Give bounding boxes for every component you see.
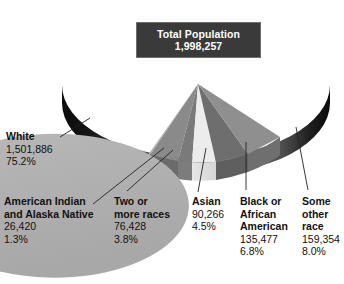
pie-top-face — [0, 84, 280, 278]
slice-label-black-name: Black or African American — [240, 195, 288, 233]
slice-label-aian: American Indian and Alaska Native 26,420… — [4, 195, 94, 245]
slice-label-aian-count: 26,420 — [4, 220, 94, 233]
slice-label-asian-count: 90,266 — [192, 208, 224, 221]
slice-label-two-or-more-races: Two or more races 76,428 3.8% — [114, 195, 170, 245]
slice-label-white-count: 1,501,886 — [6, 143, 53, 156]
slice-label-white-percent: 75.2% — [6, 155, 53, 168]
slice-label-white-name: White — [6, 130, 53, 143]
slice-label-someother-percent: 8.0% — [302, 245, 340, 258]
pie-slice-white — [0, 84, 198, 278]
slice-label-asian-percent: 4.5% — [192, 220, 224, 233]
slice-label-asian: Asian 90,266 4.5% — [192, 195, 224, 233]
total-population-value: 1,998,257 — [175, 40, 223, 52]
slice-label-asian-name: Asian — [192, 195, 224, 208]
slice-label-aian-percent: 1.3% — [4, 233, 94, 246]
total-population-heading: Total Population — [157, 28, 240, 40]
slice-label-black-or-african-american: Black or African American 135,477 6.8% — [240, 195, 288, 258]
slice-label-someother-name: Some other race — [302, 195, 340, 233]
total-population-plaque: Total Population 1,998,257 — [136, 22, 261, 58]
slice-label-two-percent: 3.8% — [114, 233, 170, 246]
slice-label-black-percent: 6.8% — [240, 245, 288, 258]
slice-label-aian-name: American Indian and Alaska Native — [4, 195, 94, 220]
slice-label-two-count: 76,428 — [114, 220, 170, 233]
slice-label-white: White 1,501,886 75.2% — [6, 130, 53, 168]
slice-label-black-count: 135,477 — [240, 233, 288, 246]
pie-chart: Total Population 1,998,257 White 1,501,8… — [0, 0, 344, 284]
slice-label-some-other-race: Some other race 159,354 8.0% — [302, 195, 340, 258]
slice-label-two-name: Two or more races — [114, 195, 170, 220]
slice-label-someother-count: 159,354 — [302, 233, 340, 246]
